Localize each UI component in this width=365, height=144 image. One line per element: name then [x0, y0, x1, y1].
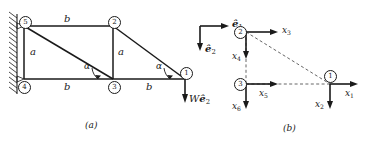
dof-x6-sub: 6 — [237, 105, 241, 112]
panel-a-node-4: 4 — [18, 81, 31, 94]
member-diagonal-left — [24, 26, 113, 79]
label-mid-vertical-a: a — [118, 47, 124, 57]
dof-x1-head — [350, 81, 358, 87]
panel-a-node-2: 2 — [108, 16, 121, 29]
load-magnitude: W — [189, 93, 199, 104]
label-load-W-e2: Wê2 — [189, 94, 210, 105]
panel-b-caption: (b) — [283, 123, 296, 133]
label-dof-x1: x1 — [345, 89, 354, 99]
dof-x6-head — [243, 101, 249, 109]
basis-vector-e1-head — [221, 23, 229, 29]
basis-e2-subscript: 2 — [211, 48, 215, 56]
panel-a-node-5: 5 — [19, 16, 32, 29]
dof-x5-sub: 5 — [264, 92, 268, 99]
load-arrow-head — [182, 94, 188, 103]
panel-b-node-3: 3 — [234, 78, 247, 91]
dof-x4-sub: 4 — [237, 55, 241, 62]
label-bottom-left-b: b — [64, 82, 70, 92]
panel-b-node-2: 2 — [234, 26, 247, 39]
dof-x1-sub: 1 — [350, 92, 354, 99]
label-dof-x2: x2 — [315, 100, 324, 110]
dof-x4-head — [243, 51, 249, 59]
panel-a-node-1: 1 — [180, 67, 193, 80]
label-left-vertical-a: a — [30, 47, 36, 57]
label-alpha-right: α — [156, 62, 162, 71]
label-bottom-right-b: b — [146, 82, 152, 92]
dof-x2-sub: 2 — [320, 103, 324, 110]
dashed-diagonal — [246, 32, 330, 84]
dof-x5-head — [270, 81, 278, 87]
dof-x3-head — [270, 29, 278, 35]
label-top-chord-b: b — [64, 14, 70, 24]
panel-b-node-1: 1 — [324, 70, 337, 83]
label-dof-x4: x4 — [232, 52, 241, 62]
dof-x3-sub: 3 — [287, 29, 291, 36]
label-dof-x6: x6 — [232, 102, 241, 112]
label-dof-x5: x5 — [259, 89, 268, 99]
label-alpha-left: α — [84, 62, 90, 71]
load-direction-subscript: 2 — [206, 98, 210, 106]
label-basis-vector-e2: ê2 — [205, 44, 216, 55]
panel-a-node-3: 3 — [108, 81, 121, 94]
wall-hatching — [9, 12, 17, 93]
panel-a-caption: (a) — [85, 120, 97, 130]
label-dof-x3: x3 — [282, 26, 291, 36]
basis-vector-e2-head — [197, 43, 203, 51]
dof-x2-head — [327, 101, 333, 109]
